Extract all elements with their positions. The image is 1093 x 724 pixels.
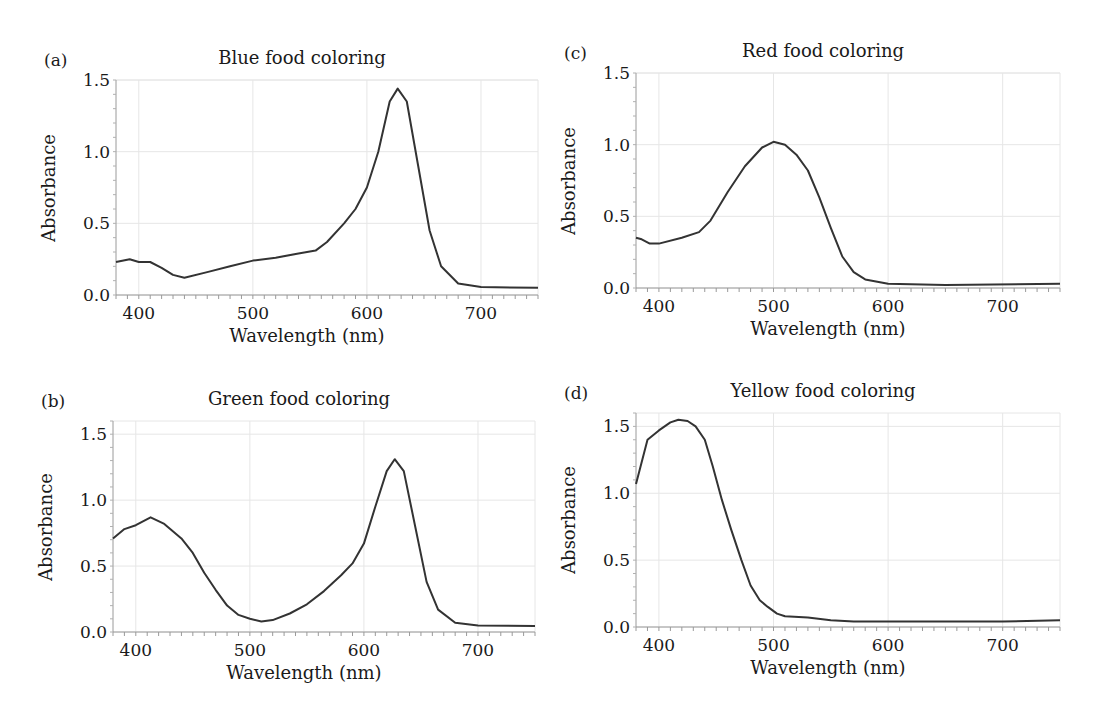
plot-area bbox=[0, 0, 1093, 724]
y-tick-label: 0.5 bbox=[603, 550, 630, 570]
panel-d: (d)Yellow food coloringAbsorbanceWavelen… bbox=[0, 0, 1093, 724]
x-tick-label: 500 bbox=[757, 635, 789, 655]
y-tick-label: 1.5 bbox=[603, 416, 630, 436]
x-tick-label: 700 bbox=[986, 635, 1018, 655]
x-tick-label: 400 bbox=[643, 635, 675, 655]
y-tick-label: 0.0 bbox=[603, 617, 630, 637]
x-tick-label: 600 bbox=[872, 635, 904, 655]
y-tick-label: 1.0 bbox=[603, 483, 630, 503]
absorbance-curve bbox=[636, 420, 1060, 622]
